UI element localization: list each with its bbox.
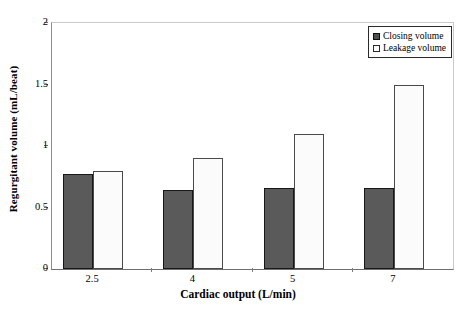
legend-swatch-closing-icon [373,33,380,40]
legend-swatch-leakage-icon [373,45,380,52]
x-tick-mark [151,268,152,272]
x-tick-mark [252,268,253,272]
bar-closing-volume [264,188,294,269]
bar-leakage-volume [394,85,424,270]
bar-leakage-volume [193,158,223,269]
bar-leakage-volume [294,134,324,269]
legend-label-leakage: Leakage volume [383,43,446,53]
x-tick-mark [352,268,353,272]
bar-closing-volume [364,188,394,269]
legend-label-closing: Closing volume [383,31,443,41]
x-tick-label: 2.5 [72,273,112,284]
legend-item-leakage-volume: Leakage volume [373,42,446,54]
legend-item-closing-volume: Closing volume [373,30,446,42]
x-tick-label: 7 [373,273,413,284]
bar-chart-figure: Regurgitant volume (mL/beat) 00.511.52 2… [0,0,474,311]
y-axis-ticks: 00.511.52 [16,0,48,311]
bar-group [364,23,424,269]
x-axis-title: Cardiac output (L/min) [22,288,454,300]
bars-layer [52,23,453,269]
chart-legend: Closing volume Leakage volume [368,26,452,58]
y-tick-label: 0.5 [22,202,48,212]
bar-group [63,23,123,269]
x-tick-label: 4 [172,273,212,284]
bar-closing-volume [163,190,193,269]
y-tick-label: 0 [22,263,48,273]
y-tick-label: 2 [22,17,48,27]
bar-group [264,23,324,269]
bar-group [163,23,223,269]
x-tick-label: 5 [273,273,313,284]
plot-area [51,22,454,270]
bar-leakage-volume [93,171,123,269]
y-tick-label: 1 [22,140,48,150]
y-tick-label: 1.5 [22,79,48,89]
bar-closing-volume [63,174,93,269]
